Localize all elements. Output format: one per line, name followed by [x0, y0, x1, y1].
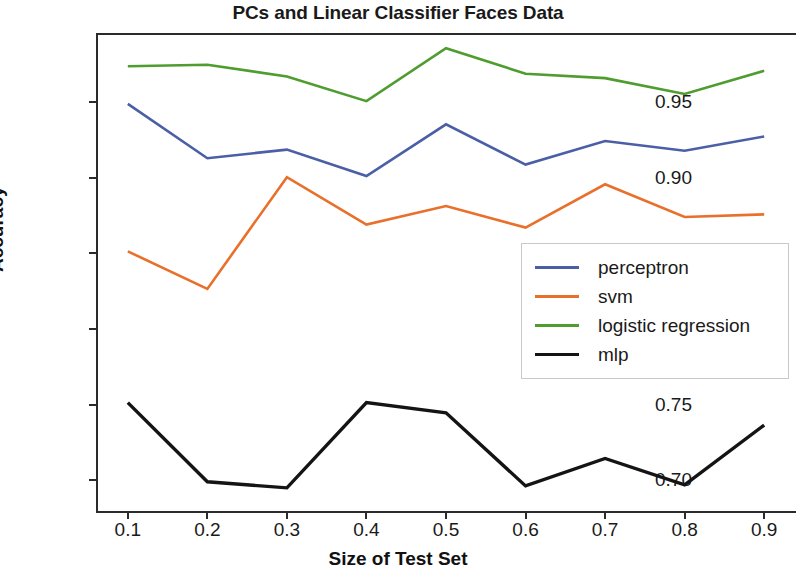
legend-swatch-icon	[535, 353, 579, 357]
legend-item-svm[interactable]: svm	[522, 282, 788, 311]
legend-label: svm	[598, 286, 633, 308]
x-axis-tick-label: 0.2	[194, 519, 220, 541]
legend-label: perceptron	[598, 257, 689, 279]
y-axis-label: Accuracy	[0, 186, 8, 272]
x-axis-tick-label: 0.5	[433, 519, 459, 541]
legend-item-logistic-regression[interactable]: logistic regression	[522, 311, 788, 340]
x-axis-label: Size of Test Set	[0, 548, 796, 570]
x-axis-tick-label: 0.1	[115, 519, 141, 541]
chart-figure: PCs and Linear Classifier Faces Data Acc…	[0, 0, 796, 584]
x-axis-tick-label: 0.3	[274, 519, 300, 541]
legend-swatch-icon	[535, 324, 579, 327]
legend-item-mlp[interactable]: mlp	[522, 340, 788, 369]
legend-item-perceptron[interactable]: perceptron	[522, 253, 788, 282]
x-axis-tick-label: 0.8	[671, 519, 697, 541]
x-axis-tick-label: 0.4	[353, 519, 379, 541]
series-line-mlp	[128, 403, 764, 488]
legend-label: mlp	[598, 344, 629, 366]
legend-swatch-icon	[535, 295, 579, 298]
series-line-logistic-regression	[128, 48, 764, 101]
chart-title: PCs and Linear Classifier Faces Data	[0, 2, 796, 24]
x-axis-tick-label: 0.6	[512, 519, 538, 541]
series-line-perceptron	[128, 104, 764, 176]
x-axis-tick-label: 0.7	[592, 519, 618, 541]
legend-swatch-icon	[535, 266, 579, 269]
legend-label: logistic regression	[598, 315, 750, 337]
legend: perceptronsvmlogistic regressionmlp	[521, 243, 789, 379]
x-axis-tick-label: 0.9	[751, 519, 777, 541]
